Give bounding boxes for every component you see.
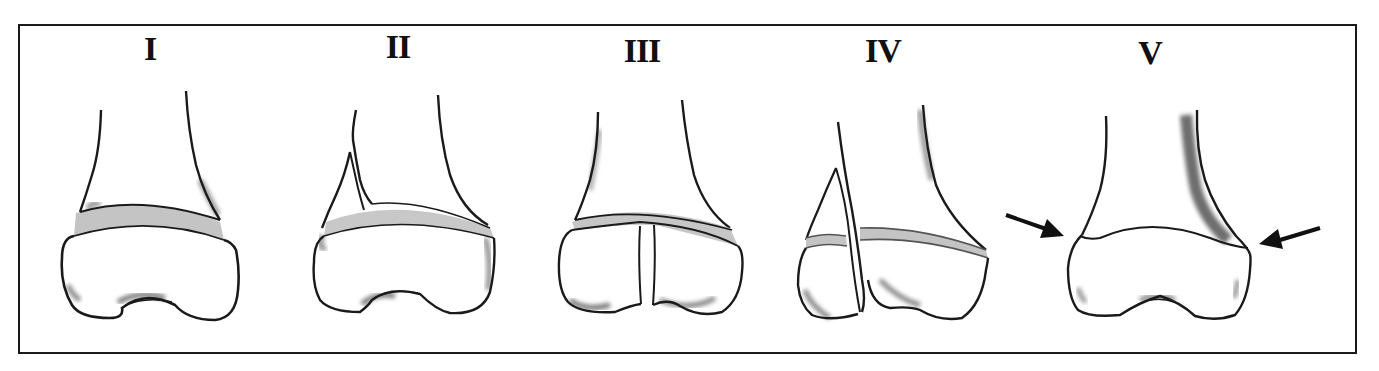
label-type-5: V [1138,36,1162,70]
arrow-right-icon [1259,228,1320,249]
label-type-4: IV [865,34,901,68]
bone-type-4 [798,105,988,319]
bone-type-5 [1068,110,1251,319]
bone-type-1 [62,91,239,320]
bone-type-3 [559,100,743,314]
salter-harris-diagram [0,0,1379,371]
label-type-3: III [624,34,661,68]
bone-type-2 [314,95,495,313]
arrow-left-icon [1006,215,1064,238]
label-type-1: I [144,32,156,66]
label-type-2: II [386,30,410,64]
